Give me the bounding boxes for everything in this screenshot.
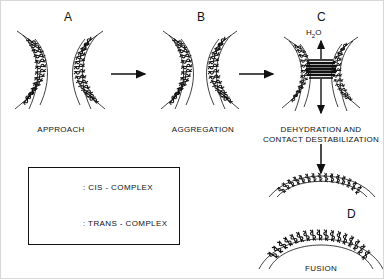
panel-b-membrane-left: [161, 31, 193, 109]
panel-a-membrane-right: [73, 31, 105, 109]
membrane-fusion-figure: A B C D APPROACH AGGREGATION DEHYDRATION…: [0, 0, 384, 279]
caption-aggregation: AGGREGATION: [161, 125, 245, 135]
panel-c-membrane-right: [332, 37, 360, 111]
panel-c-contact-zone: [306, 60, 336, 78]
legend-label-cis: : CIS - COMPLEX: [83, 183, 153, 192]
legend-box: [28, 167, 180, 245]
panel-c-membrane-left: [282, 37, 310, 111]
caption-approach: APPROACH: [19, 125, 103, 135]
panel-letter-a: A: [64, 10, 73, 24]
panel-letter-c: C: [317, 10, 326, 24]
panel-c-intermediate-membrane: [269, 173, 375, 197]
water-label-o: O: [315, 28, 321, 37]
panel-letter-d: D: [347, 207, 356, 221]
panel-a-membrane-left: [15, 31, 47, 109]
panel-b-membrane-right: [207, 31, 239, 109]
water-label: H2O: [306, 28, 321, 39]
caption-dehydration: DEHYDRATION AND CONTACT DESTABILIZATION: [261, 125, 381, 145]
legend-label-trans: : TRANS - COMPLEX: [83, 219, 167, 228]
panel-letter-b: B: [197, 10, 206, 24]
caption-fusion: FUSION: [289, 264, 353, 274]
